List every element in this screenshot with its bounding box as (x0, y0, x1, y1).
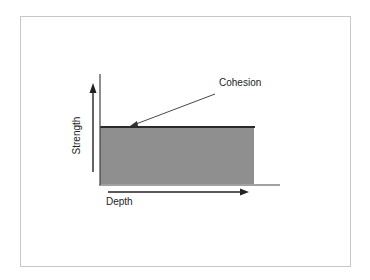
strength-label: Strength (71, 117, 82, 155)
strength-region (100, 127, 254, 184)
depth-arrow-head-icon (240, 189, 249, 196)
cohesion-pointer-head-icon (130, 121, 138, 126)
cohesion-pointer (136, 94, 215, 124)
depth-label: Depth (106, 196, 133, 207)
strength-depth-diagram (0, 0, 370, 280)
strength-arrow-head-icon (90, 83, 97, 93)
cohesion-label: Cohesion (219, 77, 261, 88)
